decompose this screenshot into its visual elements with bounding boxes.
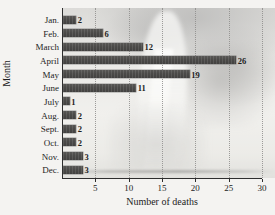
y-axis-category-label: Dec. [0, 166, 59, 175]
bar-aug[interactable] [63, 111, 76, 119]
bar-value-label: 19 [191, 71, 200, 79]
bar-chart: 510152025302Jan.6Feb.12March26April19May… [0, 0, 275, 215]
bar-dec[interactable] [63, 166, 83, 174]
bar-april[interactable] [63, 56, 236, 64]
y-axis-title: Month [1, 44, 12, 104]
y-axis-category-label: Jan. [0, 16, 59, 25]
y-axis-line [62, 8, 63, 179]
bar-june[interactable] [63, 84, 136, 92]
x-axis-tick-label: 20 [184, 183, 206, 193]
x-axis-tick-30 [262, 179, 263, 182]
y-axis-category-label: Oct. [0, 139, 59, 148]
bar-value-label: 3 [85, 153, 89, 161]
bar-value-label: 1 [71, 98, 75, 106]
gridline-30 [262, 8, 263, 178]
bar-value-label: 2 [78, 112, 82, 120]
x-axis-tick-label: 30 [251, 183, 273, 193]
gridline-10 [129, 8, 130, 178]
bar-nov[interactable] [63, 152, 83, 160]
bar-feb[interactable] [63, 29, 103, 37]
gridline-25 [229, 8, 230, 178]
bar-value-label: 3 [85, 166, 89, 174]
x-axis-tick-10 [129, 179, 130, 182]
bar-july[interactable] [63, 97, 70, 105]
bar-march[interactable] [63, 43, 143, 51]
x-axis-tick-label: 5 [84, 183, 106, 193]
x-axis-tick-label: 10 [118, 183, 140, 193]
x-axis-tick-25 [229, 179, 230, 182]
x-axis-tick-label: 25 [218, 183, 240, 193]
bar-value-label: 6 [105, 30, 109, 38]
gridline-15 [162, 8, 163, 178]
x-axis-title: Number of deaths [62, 196, 262, 207]
bar-value-label: 2 [78, 125, 82, 133]
gridline-20 [195, 8, 196, 178]
bar-may[interactable] [63, 70, 190, 78]
bar-value-label: 26 [238, 57, 247, 65]
x-axis-tick-label: 15 [151, 183, 173, 193]
x-axis-tick-15 [162, 179, 163, 182]
y-axis-category-label: Nov. [0, 153, 59, 162]
y-axis-category-label: Aug. [0, 112, 59, 121]
y-axis-category-label: Feb. [0, 30, 59, 39]
bar-value-label: 11 [138, 84, 146, 92]
bar-sept[interactable] [63, 125, 76, 133]
bar-value-label: 2 [78, 139, 82, 147]
x-axis-line [62, 178, 262, 179]
bar-value-label: 2 [78, 16, 82, 24]
bar-oct[interactable] [63, 138, 76, 146]
bar-jan[interactable] [63, 16, 76, 24]
x-axis-tick-20 [195, 179, 196, 182]
bar-value-label: 12 [145, 43, 154, 51]
y-axis-category-label: Sept. [0, 125, 59, 134]
x-axis-tick-5 [95, 179, 96, 182]
